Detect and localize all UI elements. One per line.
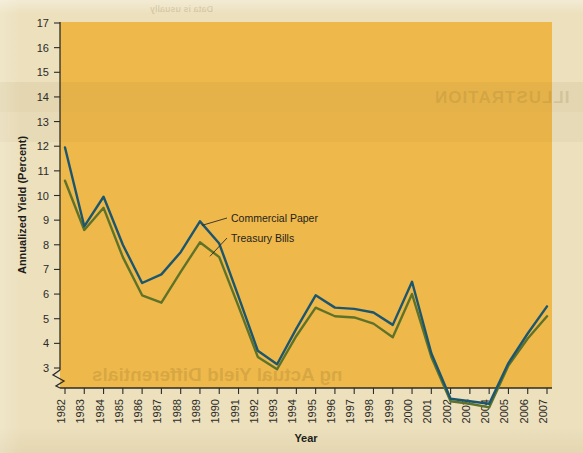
x-tick-label: 1987: [151, 399, 163, 423]
y-tick-label: 17: [37, 17, 49, 29]
y-axis-break-symbol: [53, 370, 64, 388]
commercial-paper-leader-line: [202, 218, 227, 225]
y-axis-ticks: 17161514131211109876543: [37, 17, 60, 374]
x-tick-label: 1986: [132, 399, 144, 423]
y-tick-label: 15: [37, 66, 49, 78]
x-tick-label: 1988: [171, 399, 183, 423]
x-axis-title: Year: [294, 432, 318, 444]
legend-label-treasury-bills: Treasury Bills: [231, 232, 294, 244]
y-tick-label: 4: [43, 337, 49, 349]
line-chart: 17161514131211109876543 1982198319841985…: [0, 0, 583, 453]
x-tick-label: 1985: [113, 399, 125, 423]
figure-page: Data is usually ILLUSTRATION ng Actual Y…: [0, 0, 583, 453]
x-tick-label: 1984: [94, 399, 106, 423]
y-tick-label: 12: [37, 140, 49, 152]
y-tick-label: 14: [37, 91, 49, 103]
data-series-group: [65, 147, 547, 407]
y-tick-label: 11: [38, 165, 49, 177]
treasury-bills-leader-line: [210, 238, 227, 256]
x-tick-label: 1994: [286, 399, 298, 423]
x-tick-label: 2002: [441, 399, 453, 423]
y-axis-title: Annualized Yield (Percent): [16, 136, 28, 274]
x-tick-label: 2005: [498, 399, 510, 423]
x-tick-label: 1999: [383, 399, 395, 423]
x-tick-label: 1993: [267, 399, 279, 423]
y-tick-label: 10: [37, 190, 49, 202]
y-tick-label: 16: [37, 42, 49, 54]
y-tick-label: 3: [43, 362, 49, 374]
x-tick-label: 1990: [209, 399, 221, 423]
x-tick-label: 1995: [306, 399, 318, 423]
x-tick-label: 1998: [363, 399, 375, 423]
x-tick-label: 1983: [74, 399, 86, 423]
series-line-commercial-paper: [65, 147, 547, 403]
x-tick-label: 1996: [325, 399, 337, 423]
x-tick-label: 1997: [344, 399, 356, 423]
y-tick-label: 13: [37, 116, 49, 128]
y-tick-label: 7: [43, 263, 49, 275]
y-tick-label: 8: [43, 239, 49, 251]
x-tick-label: 2000: [402, 399, 414, 423]
x-tick-label: 2007: [537, 399, 549, 423]
y-tick-label: 9: [43, 214, 49, 226]
x-tick-label: 2001: [421, 399, 433, 423]
x-tick-label: 1992: [248, 399, 260, 423]
x-tick-label: 1982: [55, 399, 67, 423]
y-tick-label: 5: [43, 313, 49, 325]
x-tick-label: 1991: [229, 399, 241, 423]
legend-label-commercial-paper: Commercial Paper: [231, 212, 318, 224]
y-tick-label: 6: [43, 288, 49, 300]
x-tick-label: 1989: [190, 399, 202, 423]
x-tick-label: 2006: [518, 399, 530, 423]
